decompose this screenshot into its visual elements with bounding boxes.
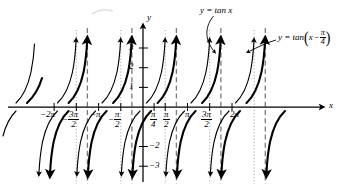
branch-tan-x-2-lower [77, 111, 96, 174]
x-tick-label-2pi: 2π [230, 110, 239, 119]
x-tick-label-neg-2pi: −2π [40, 110, 55, 119]
branch-tan-x-2-upper [102, 40, 121, 103]
branch-tan-x-4-upper [191, 40, 210, 103]
numerator: 3π [68, 110, 79, 119]
right-paren: ) [326, 29, 331, 45]
graph-canvas [0, 0, 349, 186]
branch-shift-5-upper [247, 40, 266, 103]
y-tick-label-2: 2 [129, 62, 134, 71]
annotation-lhs: y = tan [278, 33, 304, 42]
branch-tan-x-0-lower-partial [3, 111, 16, 136]
fraction: 3π2 [68, 110, 79, 129]
branch-shift-1-upper [69, 40, 88, 103]
branch-tan-x-5-lower [210, 111, 229, 174]
annotation-tan-x: y = tan x [200, 6, 232, 15]
y-tick-label-1: 1 [129, 82, 134, 91]
x-tick-label-pi: π [185, 110, 190, 119]
denominator: 2 [68, 119, 79, 129]
leader-to-tan-x [207, 16, 215, 52]
scan-artifact [92, 10, 113, 14]
numerator: π [163, 110, 170, 119]
denominator: 2 [163, 119, 170, 129]
x-tick-label-3pi-over-2: 3π2 [201, 110, 212, 129]
x-tick-label-pi-over-4: π4 [150, 110, 157, 129]
numerator: 3π [201, 110, 212, 119]
x-tick-label-pi-over-2: π2 [163, 110, 170, 129]
fraction: 3π2 [201, 110, 212, 129]
denominator: 2 [201, 119, 212, 129]
branch-tan-x-3-upper [147, 40, 166, 103]
branch-tan-x-0-upper-partial [16, 44, 35, 103]
branch-tan-x-1-upper [58, 40, 77, 103]
y-axis-label: y [147, 13, 151, 22]
y-tick-label-neg-2: −2 [149, 141, 160, 150]
fraction: π2 [163, 110, 170, 129]
branch-shift-6-lower-partial [266, 111, 285, 174]
denominator: 4 [150, 119, 157, 129]
left-paren: ( [304, 29, 309, 45]
branch-shift-2-lower [88, 111, 107, 174]
leader-to-tan-x-shifted [248, 40, 276, 52]
tangent-graph-figure: x y −2π −3π2 −π −π2 π4 π2 π 3π2 2π 3 2 1… [0, 0, 349, 186]
annotation-tan-x-shifted: y = tan(x−π4) [278, 29, 331, 46]
branch-shift-0-upper-partial [27, 78, 42, 103]
fraction: π2 [114, 110, 121, 129]
branch-tan-x-5-upper [235, 40, 254, 103]
branch-tan-x-1-lower [39, 111, 58, 174]
y-tick-label-neg-3: −3 [149, 161, 160, 170]
numerator: π [150, 110, 157, 119]
x-tick-label-neg-pi: −π [90, 110, 101, 119]
x-tick-label-neg-3pi-over-2: −3π2 [62, 110, 79, 129]
x-axis-label: x [329, 101, 333, 110]
annotation-minus: − [313, 33, 320, 42]
x-tick-label-neg-pi-over-2: −π2 [108, 110, 121, 129]
y-tick-label-3: 3 [129, 43, 134, 52]
numerator: π [114, 110, 121, 119]
fraction: π4 [150, 110, 157, 129]
branch-tan-x-3-lower [121, 111, 140, 174]
branch-shift-5-lower [221, 111, 240, 174]
branch-shift-4-lower [177, 111, 196, 174]
denominator: 2 [114, 119, 121, 129]
branch-shift-4-upper [202, 40, 221, 103]
branch-shift-3-upper [158, 40, 177, 103]
